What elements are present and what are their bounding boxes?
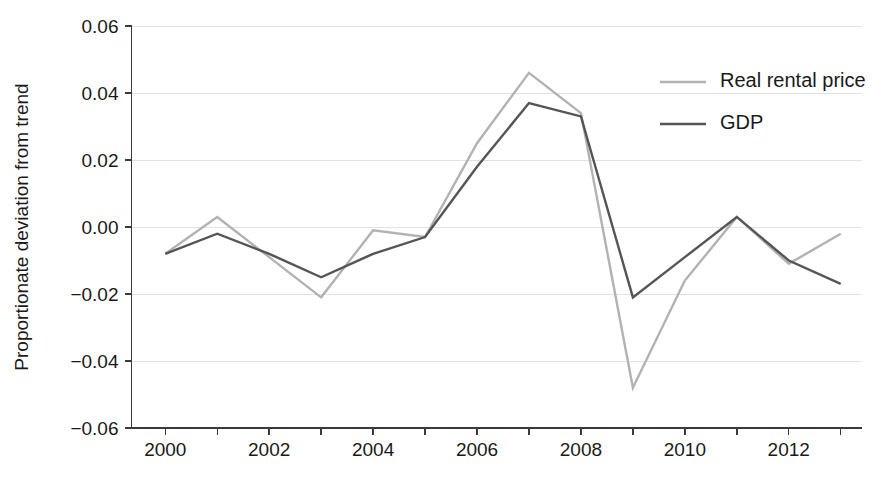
chart-figure: −0.06−0.04−0.020.000.020.040.06 20002002… [0,0,876,490]
x-tick-label: 2002 [248,439,290,460]
line-chart: −0.06−0.04−0.020.000.020.040.06 20002002… [0,0,876,490]
x-tick-labels-group: 2000200220042006200820102012 [144,439,810,460]
legend-label: GDP [720,111,763,133]
x-tick-label: 2000 [144,439,186,460]
y-tick-label: −0.02 [70,284,118,305]
x-tick-label: 2004 [352,439,395,460]
y-tick-labels-group: −0.06−0.04−0.020.000.020.040.06 [70,16,119,439]
x-tick-label: 2006 [456,439,498,460]
y-axis-title: Proportionate deviation from trend [11,83,32,370]
y-tick-label: −0.04 [70,351,119,372]
x-tick-label: 2010 [664,439,706,460]
y-tick-label: 0.06 [82,16,119,37]
y-tick-label: 0.04 [82,83,119,104]
x-tick-label: 2012 [768,439,810,460]
y-tick-label: 0.02 [82,150,119,171]
legend: Real rental priceGDP [660,69,866,133]
y-tick-label: −0.06 [70,418,118,439]
x-tick-label: 2008 [560,439,602,460]
legend-label: Real rental price [720,69,866,91]
y-tick-label: 0.00 [82,217,119,238]
